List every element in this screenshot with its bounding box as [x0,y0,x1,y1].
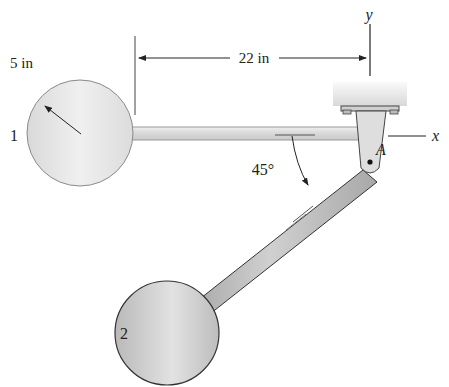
disk-1-label: 1 [10,127,18,144]
diagram-svg: 22 in y x A 5 in 1 2 45° [0,0,449,387]
disk-1 [27,80,133,186]
dimension-label: 22 in [239,50,270,66]
y-axis-label: y [363,6,373,24]
radius-label: 5 in [10,55,33,71]
disk-2-label: 2 [120,325,128,342]
angle-indicator: 45° [252,136,308,185]
pin-label: A [375,141,386,158]
angle-label: 45° [252,161,274,178]
pin-a [367,159,372,164]
horizontal-rod [132,127,370,140]
pendulum-diagram: 22 in y x A 5 in 1 2 45° [0,0,449,387]
disk-2 [115,281,219,385]
x-axis-label: x [431,127,439,144]
